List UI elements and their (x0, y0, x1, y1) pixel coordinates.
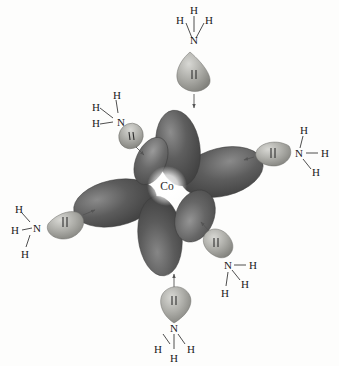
atom-label-h: H (113, 89, 121, 101)
lone-pair-orbital-right (256, 142, 291, 166)
atom-label-n: N (295, 147, 303, 159)
lone-pair-orbital-lower-right (203, 229, 233, 258)
bond-n-h-ul-3 (116, 100, 118, 113)
atom-label-h: H (170, 352, 178, 364)
atom-label-h: H (300, 124, 308, 136)
ligand-ammonia-upper-left: H H H N (92, 89, 148, 155)
atom-label-h: H (15, 203, 23, 215)
metal-center-label: Co (160, 180, 174, 192)
lone-pair-orbital-top (177, 52, 210, 92)
bond-n-h-bottom-2 (178, 334, 185, 344)
bond-n-h-lr-2 (232, 270, 240, 280)
atom-label-h: H (92, 101, 100, 113)
atom-label-h: H (205, 14, 213, 26)
bond-n-h-right-3 (303, 159, 311, 169)
atom-label-h: H (241, 278, 249, 290)
atom-label-n: N (170, 322, 178, 334)
lone-pair-orbital-bottom (161, 287, 191, 323)
bond-n-h-ul-1 (100, 108, 113, 118)
ligand-ammonia-lower-right: H H H N (201, 222, 257, 299)
atom-label-h: H (21, 248, 29, 260)
atom-label-n: N (224, 259, 232, 271)
atom-label-h: H (92, 117, 100, 129)
atom-label-h: H (312, 166, 320, 178)
bond-n-h-bottom-1 (163, 334, 170, 344)
atom-label-h: H (321, 147, 329, 159)
atom-label-h: H (11, 224, 19, 236)
diagram-canvas: Co H H H N H H H N (0, 0, 339, 366)
atom-label-h: H (249, 259, 257, 271)
ligand-ammonia-bottom: N H H H (154, 274, 195, 364)
bond-n-h-lr-3 (226, 272, 228, 286)
cobalt-ammine-complex-figure: Co H H H N H H H N (0, 0, 339, 366)
bond-n-h-left-3 (26, 235, 30, 247)
atom-label-h: H (221, 287, 229, 299)
central-orbital-set: Co (69, 107, 268, 278)
ligand-ammonia-top: H H H N (176, 4, 213, 108)
bond-n-h-left-1 (22, 213, 30, 222)
bond-n-h-left-2 (22, 228, 32, 230)
atom-label-h: H (176, 14, 184, 26)
atom-label-h: H (190, 4, 198, 16)
atom-label-h: H (154, 343, 162, 355)
atom-label-n: N (190, 34, 198, 46)
atom-label-n: N (33, 222, 41, 234)
bond-n-h-ul-2 (100, 122, 113, 124)
atom-label-h: H (187, 343, 195, 355)
lone-pair-orbital-left (47, 212, 83, 239)
